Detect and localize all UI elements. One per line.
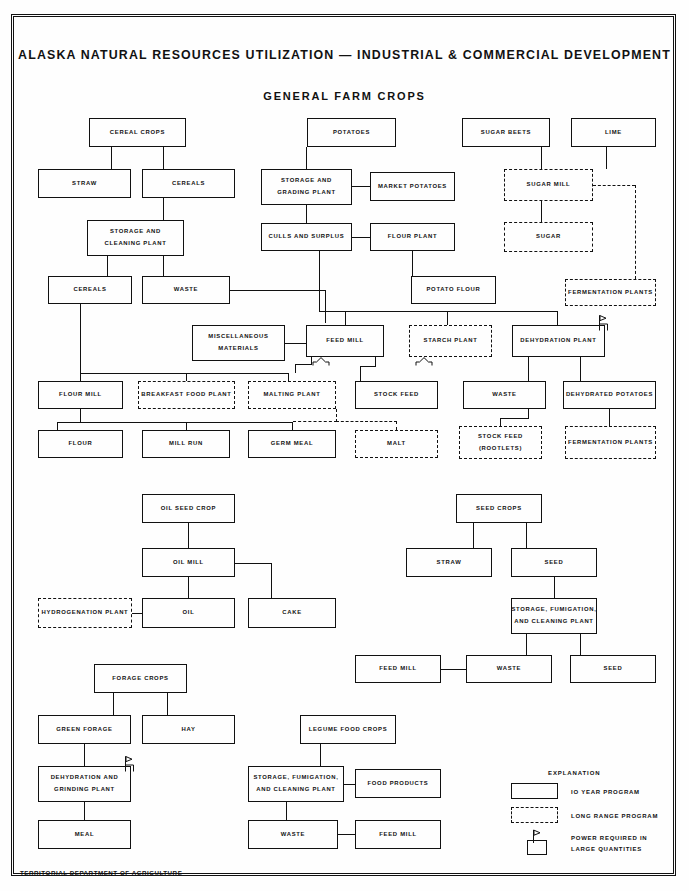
- link-storage-seed-to-seed: [580, 634, 581, 655]
- box-hydrogenation-plant: HYDROGENATION PLANT: [38, 598, 132, 628]
- bus-feedmill-left: [295, 364, 312, 365]
- box-potato-flour: POTATO FLOUR: [411, 276, 496, 304]
- box-dehydration-plant: DEHYDRATION PLANT: [512, 325, 605, 357]
- box-storage-cleaning-plant: STORAGE AND CLEANING PLANT: [87, 220, 184, 256]
- link-cereal-to-cereals: [163, 147, 164, 169]
- link-dehydrated-down: [609, 409, 610, 426]
- box-hay: HAY: [142, 715, 235, 744]
- page-subtitle: GENERAL FARM CROPS: [0, 90, 689, 102]
- link-cereals-to-storage: [163, 198, 164, 220]
- link-oilmill-to-oil: [188, 577, 189, 598]
- box-feed-mill-top: FEED MILL: [306, 325, 384, 357]
- link-sugarmill-to-sugar: [541, 201, 542, 222]
- box-lime: LIME: [571, 118, 656, 147]
- box-cake: CAKE: [248, 598, 336, 628]
- link-potatoes-to-storage: [306, 147, 307, 169]
- power-input-arrow-feed-mill: [312, 357, 330, 366]
- box-fermentation-plants-bottom: FERMENTATION PLANTS: [565, 426, 656, 459]
- link-dehydration-to-dehydrated: [580, 357, 581, 381]
- box-waste-cereal: WASTE: [142, 276, 230, 304]
- box-flour: FLOUR: [38, 430, 123, 458]
- link-culls-down: [319, 251, 320, 311]
- bus-culls-to-plants: [319, 311, 557, 312]
- box-waste-potato: WASTE: [463, 381, 546, 409]
- box-stock-feed-rootlets: STOCK FEED (ROOTLETS): [459, 426, 542, 459]
- link-green-to-dehydration: [84, 744, 85, 766]
- link-bus-to-flour: [57, 422, 58, 430]
- bus-malt-feed: [336, 421, 397, 422]
- link-dehydration-to-meal: [84, 802, 85, 820]
- link-forage-to-green: [113, 693, 114, 715]
- box-meal: MEAL: [38, 820, 131, 849]
- page-title: ALASKA NATURAL RESOURCES UTILIZATION — I…: [0, 48, 689, 62]
- link-sugarmill-right-down: [635, 185, 636, 279]
- link-culls-to-flourplant: [352, 237, 370, 238]
- box-market-potatoes: MARKET POTATOES: [370, 172, 455, 201]
- diagram-page: ALASKA NATURAL RESOURCES UTILIZATION — I…: [0, 0, 689, 891]
- box-flour-mill: FLOUR MILL: [38, 381, 123, 409]
- link-waste-cereal-right: [230, 290, 325, 291]
- bus-oilmill-to-cake: [235, 563, 271, 564]
- box-sugar-beets: SUGAR BEETS: [462, 118, 550, 147]
- link-sugarbeets-down: [541, 147, 542, 169]
- bus-waste-potato: [500, 418, 529, 419]
- link-sugarmill-right: [593, 185, 635, 186]
- box-oil-mill: OIL MILL: [142, 548, 235, 577]
- link-feedmill-right-down: [375, 357, 376, 366]
- link-legume-to-storage: [320, 744, 321, 766]
- box-straw-cereal: STRAW: [38, 169, 131, 198]
- link-storage-to-market: [352, 186, 370, 187]
- legend-swatch-10-year: [511, 783, 558, 799]
- link-storage-to-cereals-mid: [107, 256, 108, 276]
- link-lime-down: [606, 147, 607, 169]
- link-feedmill-to-waste-seed: [441, 669, 466, 670]
- link-bus-to-starchplant: [447, 311, 448, 325]
- box-malt: MALT: [355, 430, 438, 458]
- bus-cereals-mid: [80, 373, 288, 374]
- power-flag-icon-dehydration-plant: [597, 314, 610, 331]
- link-forage-to-hay: [167, 693, 168, 715]
- box-forage-crops: FORAGE CROPS: [94, 664, 187, 693]
- link-cereal-to-straw: [111, 147, 112, 169]
- box-cereals-mid: CEREALS: [48, 276, 132, 304]
- box-dehydration-grinding-plant: DEHYDRATION AND GRINDING PLANT: [38, 766, 131, 802]
- box-seed-lower: SEED: [570, 655, 656, 683]
- link-flourplant-to-potatoflour: [412, 251, 413, 276]
- legend-label-long-range: LONG RANGE PROGRAM: [571, 811, 658, 822]
- bus-feedmill-right: [360, 366, 376, 367]
- link-oilseed-to-oilmill: [188, 523, 189, 548]
- box-miscellaneous-materials: MISCELLANEOUS MATERIALS: [192, 325, 285, 361]
- link-stockfeed-down: [360, 366, 361, 381]
- link-storage-to-waste: [163, 256, 164, 276]
- link-bus-to-germmeal: [292, 422, 293, 430]
- box-potatoes: POTATOES: [307, 118, 396, 147]
- link-malt-down: [396, 421, 397, 430]
- link-bus-to-feedmill: [345, 311, 346, 325]
- link-dehydration-to-waste: [528, 357, 529, 381]
- box-storage-grading-plant: STORAGE AND GRADING PLANT: [261, 169, 352, 205]
- box-food-products: FOOD PRODUCTS: [355, 769, 441, 798]
- bus-malting-to-malt: [293, 421, 337, 422]
- link-storage-to-culls: [306, 205, 307, 223]
- link-waste-potato-to-rootlets: [500, 418, 501, 426]
- legend-power-box: [527, 840, 547, 855]
- link-cereals-mid-down: [80, 304, 81, 373]
- box-cereal-crops: CEREAL CROPS: [89, 118, 186, 147]
- link-seed-to-storage: [554, 577, 555, 598]
- box-straw-seed: STRAW: [406, 548, 492, 577]
- box-cereals-top: CEREALS: [142, 169, 235, 198]
- box-storage-fumigation-legume: STORAGE, FUMIGATION, AND CLEANING PLANT: [248, 766, 344, 802]
- box-stock-feed: STOCK FEED: [355, 381, 438, 409]
- box-sugar-mill: SUGAR MILL: [504, 169, 593, 201]
- link-bus-to-millrun: [186, 422, 187, 430]
- box-storage-fumigation-seed: STORAGE, FUMIGATION, AND CLEANING PLANT: [511, 598, 597, 634]
- box-germ-meal: GERM MEAL: [248, 430, 336, 458]
- box-green-forage: GREEN FORAGE: [38, 715, 131, 744]
- link-waste-legume-to-feedmill: [338, 834, 355, 835]
- link-hydrogenation-to-oil: [132, 613, 142, 614]
- legend-label-power-line1: POWER REQUIRED IN: [571, 833, 647, 844]
- box-seed-crops: SEED CROPS: [456, 494, 542, 523]
- box-seed-upper: SEED: [511, 548, 597, 577]
- link-feedmill-left-down: [311, 357, 312, 364]
- box-culls-and-surplus: CULLS AND SURPLUS: [261, 223, 352, 251]
